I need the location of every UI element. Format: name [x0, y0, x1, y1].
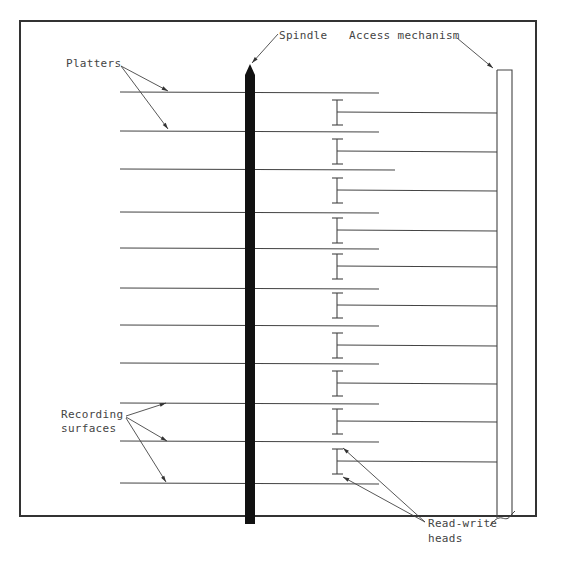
access-mechanism-arrow [457, 38, 493, 68]
recording-surfaces-arrow-2 [126, 417, 167, 441]
access-arm [337, 305, 497, 306]
platter-line [120, 169, 395, 170]
recording-surfaces-arrow-1 [126, 403, 166, 416]
read-write-heads-label-line2: heads [428, 532, 463, 546]
access-arm [337, 383, 497, 384]
access-arm [337, 112, 497, 113]
access-arm [337, 230, 497, 231]
spindle-label: Spindle [279, 29, 327, 43]
access-arm [337, 190, 497, 191]
read-write-heads-arrow-1 [343, 448, 425, 522]
access-arm [337, 421, 497, 422]
access-mechanism-column [497, 70, 512, 518]
spindle-shaft [245, 64, 255, 524]
platters-arrow-2 [121, 66, 168, 129]
recording-surfaces-label-line2: surfaces [61, 422, 116, 436]
disk-pack-diagram [0, 0, 570, 569]
access-arm [337, 345, 497, 346]
recording-surfaces-label-line1: Recording [61, 408, 123, 422]
spindle-arrow [252, 34, 278, 63]
access-arm [337, 151, 497, 152]
platters-label: Platters [66, 57, 121, 71]
access-arm [337, 266, 497, 267]
access-arm [337, 461, 497, 462]
read-write-heads-label-line1: Read-write [428, 517, 497, 531]
access-mechanism-label: Access mechanism [349, 29, 460, 43]
platters-arrow-1 [121, 66, 168, 91]
recording-surfaces-arrow-3 [126, 418, 166, 482]
read-write-heads-arrow-2 [343, 477, 425, 522]
